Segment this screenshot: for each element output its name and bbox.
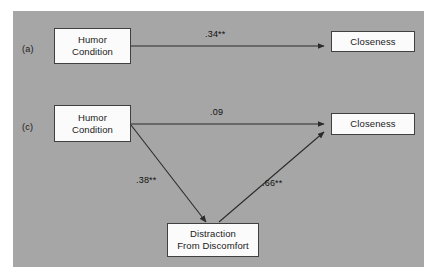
path-label-a-direct: .34** xyxy=(205,29,226,39)
node-humor-condition-c-line2: Condition xyxy=(72,124,113,136)
node-closeness-c-label: Closeness xyxy=(350,118,395,130)
node-distraction-line2: From Discomfort xyxy=(177,240,249,252)
node-distraction-line1: Distraction xyxy=(177,228,249,240)
node-closeness-a-label: Closeness xyxy=(350,36,395,48)
panel-label-a: (a) xyxy=(22,44,34,54)
node-closeness-a[interactable]: Closeness xyxy=(331,31,415,52)
node-humor-condition-a-line2: Condition xyxy=(72,46,113,58)
panel-label-c: (c) xyxy=(22,122,33,132)
node-humor-condition-a-line1: Humor xyxy=(72,34,113,46)
diagram-panel: (a) (c) Humor Condition Closeness .34** … xyxy=(13,11,424,267)
path-label-c-direct: .09 xyxy=(210,107,223,117)
node-distraction-from-discomfort[interactable]: Distraction From Discomfort xyxy=(167,223,259,257)
path-label-c-a-path: .38** xyxy=(136,175,157,185)
node-humor-condition-c[interactable]: Humor Condition xyxy=(54,105,131,142)
node-humor-condition-c-line1: Humor xyxy=(72,112,113,124)
node-humor-condition-a[interactable]: Humor Condition xyxy=(54,28,131,64)
path-label-c-b-path: .66** xyxy=(262,178,283,188)
arrow-c-b-path xyxy=(219,132,324,222)
arrow-c-a-path xyxy=(131,125,206,222)
figure-canvas: (a) (c) Humor Condition Closeness .34** … xyxy=(0,0,436,278)
node-closeness-c[interactable]: Closeness xyxy=(331,113,415,135)
